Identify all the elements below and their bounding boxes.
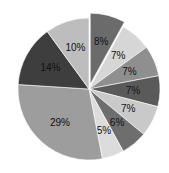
slice-label: 6%	[110, 117, 125, 128]
slice-label: 5%	[97, 125, 112, 136]
slice-label: 7%	[126, 85, 141, 96]
slice-label: 29%	[50, 117, 70, 128]
pie-chart: 8%7%7%7%7%6%5%29%14%10%	[0, 0, 169, 173]
slice-label: 14%	[40, 62, 60, 73]
slice-label: 10%	[65, 42, 85, 53]
slice-label: 7%	[111, 50, 126, 61]
slice-label: 7%	[121, 103, 136, 114]
slice-label: 8%	[94, 36, 109, 47]
slice-label: 7%	[122, 66, 137, 77]
